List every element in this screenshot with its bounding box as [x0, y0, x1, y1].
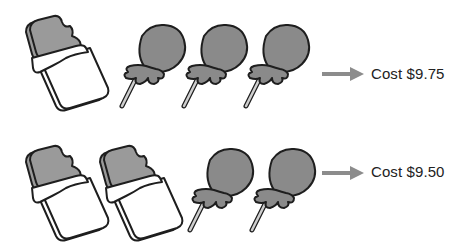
row-2: Cost $9.50	[0, 122, 469, 244]
cost-label: Cost $9.50	[371, 163, 445, 180]
lollipop-icon	[242, 22, 314, 112]
arrow-right-icon	[322, 66, 366, 82]
row-1: Cost $9.75	[0, 0, 469, 122]
arrow-right-icon	[322, 165, 366, 181]
cost-label: Cost $9.75	[371, 65, 445, 82]
lollipop-icon	[248, 146, 320, 236]
chocolate-bar-icon	[4, 2, 114, 117]
chocolate-bar-icon	[78, 132, 188, 244]
